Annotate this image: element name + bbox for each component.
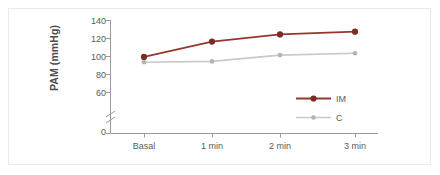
legend-swatch-c	[296, 115, 331, 120]
series-c-line	[144, 53, 355, 62]
x-axis-ticks	[145, 134, 356, 138]
series-im	[141, 29, 358, 60]
plot-area	[0, 0, 440, 175]
series-im-line	[144, 32, 355, 57]
series-c	[142, 51, 358, 65]
legend-swatch-im	[296, 95, 331, 101]
legend	[296, 95, 331, 119]
axis-lines	[111, 20, 379, 134]
chart-figure: PAM (mmHg) 140 120 100 80 60 0 Basal 1 m…	[0, 0, 440, 175]
